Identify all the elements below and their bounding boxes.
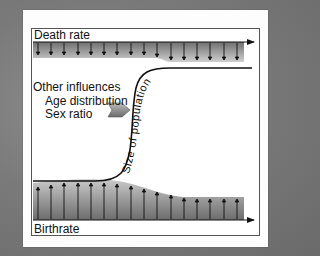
curve-label: Size of population — [119, 75, 153, 174]
birthrate-band — [33, 179, 254, 220]
death-rate-label: Death rate — [34, 29, 90, 41]
influences-heading: Other influences — [33, 81, 120, 93]
death-rate-band — [33, 42, 254, 62]
birthrate-label: Birthrate — [34, 223, 79, 235]
influence-age-distribution: Age distribution — [45, 95, 128, 107]
influence-sex-ratio: Sex ratio — [45, 108, 92, 120]
